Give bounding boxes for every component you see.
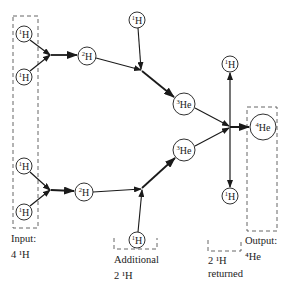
nucleus-node-he3b: 3He [173, 139, 195, 161]
output-label: Output: [245, 234, 277, 247]
input-box [13, 16, 38, 228]
input-count: 4 ¹H [11, 248, 36, 261]
returned-label: returned [208, 267, 243, 280]
reaction-arrows [30, 28, 249, 232]
nucleus-label: 3He [177, 144, 192, 156]
output-product: ⁴He [245, 250, 277, 263]
additional-label: Additional [114, 253, 159, 266]
returned-count: 2 ¹H [208, 254, 243, 267]
nucleus-node-h1add: 1H [129, 232, 145, 248]
output-caption: Output: ⁴He [245, 234, 277, 263]
nucleus-node-he3a: 3He [173, 93, 195, 115]
nucleus-node-h1ret_up: 1H [222, 56, 238, 72]
input-label: Input: [11, 232, 36, 245]
input-caption: Input: 4 ¹H [11, 232, 36, 261]
nucleus-node-h1ret_dn: 1H [222, 188, 238, 204]
nucleus-node-h1b: 1H [16, 69, 32, 85]
nucleus-label: 3He [177, 98, 192, 110]
nucleus-node-h1c: 1H [16, 158, 32, 174]
nucleus-node-h2a: 2H [78, 47, 96, 65]
returned-bracket [208, 240, 241, 251]
nucleus-node-h1top: 1H [129, 12, 145, 28]
pp-chain-diagram: 1H1H1H1H2H2H1H1H3He3He1H1H4He [0, 0, 287, 289]
additional-count: 2 ¹H [114, 269, 159, 282]
additional-caption: Additional 2 ¹H [114, 253, 159, 282]
nucleus-node-he4: 4He [250, 114, 276, 140]
nucleus-node-h2b: 2H [75, 183, 93, 201]
returned-caption: 2 ¹H returned [208, 254, 243, 280]
nucleus-node-h1d: 1H [16, 204, 32, 220]
nucleus-label: 4He [256, 121, 271, 133]
nucleus-nodes: 1H1H1H1H2H2H1H1H3He3He1H1H4He [16, 12, 276, 248]
nucleus-node-h1a: 1H [16, 26, 32, 42]
